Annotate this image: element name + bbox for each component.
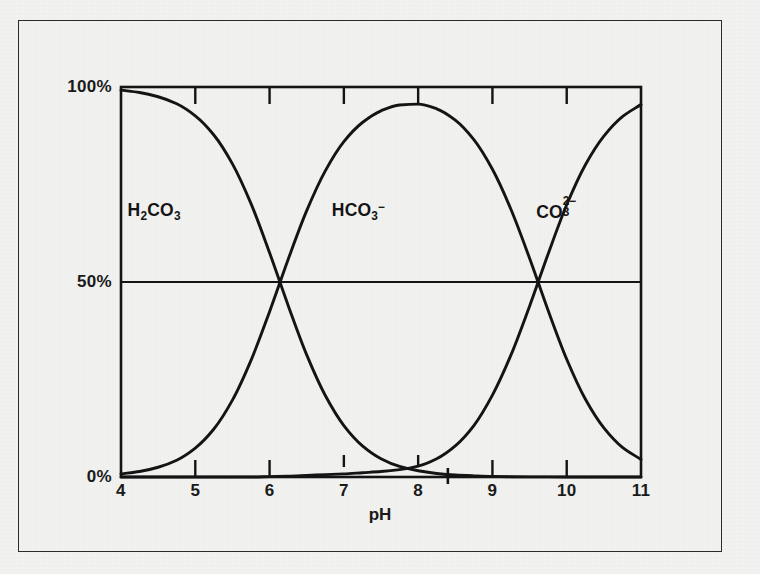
curve-h2co3 bbox=[121, 90, 641, 477]
x-tick-label-5: 5 bbox=[170, 481, 220, 501]
y-tick-label-100: 100% bbox=[42, 77, 112, 97]
y-tick-label-50: 50% bbox=[42, 272, 112, 292]
species-label-carbonic-acid: H2CO3 bbox=[128, 200, 181, 223]
x-tick-label-9: 9 bbox=[467, 481, 517, 501]
species-curves bbox=[121, 90, 641, 477]
species-label-bicarbonate: HCO3− bbox=[332, 200, 385, 223]
x-tick-label-8: 8 bbox=[393, 481, 443, 501]
x-tick-label-4: 4 bbox=[96, 481, 146, 501]
x-tick-label-11: 11 bbox=[616, 481, 666, 501]
x-tick-label-7: 7 bbox=[319, 481, 369, 501]
x-tick-label-10: 10 bbox=[542, 481, 592, 501]
curve-hco3 bbox=[121, 104, 641, 474]
species-label-carbonate: CO2−3 bbox=[536, 200, 574, 223]
axis-ticks bbox=[195, 87, 566, 484]
x-tick-label-6: 6 bbox=[245, 481, 295, 501]
x-axis-title: pH bbox=[0, 505, 760, 525]
curve-co32 bbox=[121, 105, 641, 477]
